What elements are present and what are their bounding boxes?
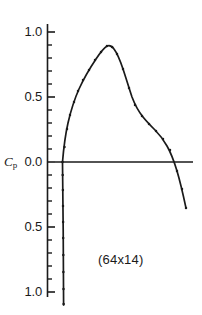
data-point-markers-upper [61,45,187,210]
y-tick-label-1-0-negative: 1.0 [6,284,42,299]
y-tick-label-0-5-negative: 0.5 [6,219,42,234]
y-tick-label-1-0-positive: 1.0 [6,24,42,39]
y-axis-title-subscript: p [13,160,18,170]
y-axis-title: Cp [4,154,17,170]
y-axis-title-main: C [4,154,13,169]
case-annotation: (64x14) [98,252,143,267]
cp-curve-lower [63,162,64,305]
figure-container: 1.0 0.5 0.0 0.5 1.0 Cp (64x14) [0,0,202,315]
cp-curve-upper [63,46,187,208]
y-tick-label-0-5-positive: 0.5 [6,89,42,104]
